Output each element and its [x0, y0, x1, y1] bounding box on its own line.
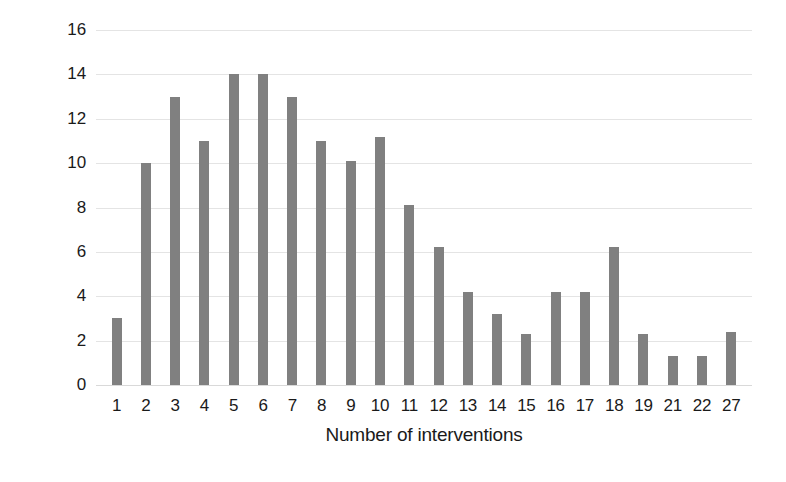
y-axis-tick-label: 6	[52, 241, 86, 263]
bar	[287, 97, 297, 385]
x-axis-tick-label: 7	[278, 391, 307, 421]
bar-slot	[600, 30, 629, 385]
bar	[404, 205, 414, 385]
x-axis-tick-label: 5	[219, 391, 248, 421]
x-axis-tick-label: 17	[570, 391, 599, 421]
bar	[346, 161, 356, 385]
x-axis-tick-label: 18	[600, 391, 629, 421]
bar-slot	[219, 30, 248, 385]
x-axis-tick-label: 19	[629, 391, 658, 421]
bar-slot	[453, 30, 482, 385]
y-axis-tick-label: 12	[52, 108, 86, 130]
bar-slot	[131, 30, 160, 385]
bar-slot	[541, 30, 570, 385]
x-axis-title: Number of interventions	[96, 424, 752, 446]
bar	[580, 292, 590, 385]
bar	[316, 141, 326, 385]
y-axis-tick-label: 4	[52, 285, 86, 307]
bar-slot	[102, 30, 131, 385]
bar-slot	[307, 30, 336, 385]
bar	[521, 334, 531, 385]
y-axis-tick-label: 8	[52, 197, 86, 219]
bar	[551, 292, 561, 385]
x-axis-tick-label: 15	[512, 391, 541, 421]
x-axis-tick-label: 10	[365, 391, 394, 421]
bar-slot	[717, 30, 746, 385]
x-axis-tick-label: 6	[248, 391, 277, 421]
bar	[170, 97, 180, 385]
bar-slot	[161, 30, 190, 385]
bar	[492, 314, 502, 385]
x-axis-tick-labels: 12345678910111213141516171819212227	[96, 391, 752, 421]
bar-slot	[190, 30, 219, 385]
bar	[638, 334, 648, 385]
y-axis-tick-label: 2	[52, 330, 86, 352]
x-axis-tick-label: 14	[482, 391, 511, 421]
y-axis-tick-labels: 1614121086420	[52, 19, 86, 385]
bar-slot	[570, 30, 599, 385]
bar-slot	[365, 30, 394, 385]
x-axis-tick-label: 12	[424, 391, 453, 421]
bar	[229, 74, 239, 385]
bar-slot	[248, 30, 277, 385]
x-axis-tick-label: 27	[717, 391, 746, 421]
plot-area	[96, 30, 752, 385]
x-axis-tick-label: 21	[658, 391, 687, 421]
bar	[199, 141, 209, 385]
bar	[697, 356, 707, 385]
x-axis-tick-label: 13	[453, 391, 482, 421]
bar	[609, 247, 619, 385]
bar-slot	[687, 30, 716, 385]
bar	[258, 74, 268, 385]
bar-slot	[336, 30, 365, 385]
bar	[434, 247, 444, 385]
gridline	[96, 385, 752, 386]
bar-slot	[278, 30, 307, 385]
bar	[375, 137, 385, 386]
x-axis-tick-label: 16	[541, 391, 570, 421]
bar	[112, 318, 122, 385]
x-axis-tick-label: 1	[102, 391, 131, 421]
bar-slot	[629, 30, 658, 385]
bar-slot	[512, 30, 541, 385]
bar	[726, 332, 736, 385]
y-axis-tick-label: 0	[52, 374, 86, 396]
y-axis-tick-label: 14	[52, 63, 86, 85]
bar-slot	[482, 30, 511, 385]
x-axis-tick-label: 22	[687, 391, 716, 421]
x-axis-tick-label: 11	[395, 391, 424, 421]
bar-slot	[395, 30, 424, 385]
bar-slot	[424, 30, 453, 385]
x-axis-tick-label: 2	[131, 391, 160, 421]
x-axis-tick-label: 9	[336, 391, 365, 421]
x-axis-tick-label: 3	[161, 391, 190, 421]
bar-series	[96, 30, 752, 385]
bar-chart: Number of reports 1614121086420 12345678…	[0, 0, 786, 482]
bar	[463, 292, 473, 385]
y-axis-tick-label: 10	[52, 152, 86, 174]
bar-slot	[658, 30, 687, 385]
bar	[141, 163, 151, 385]
x-axis-tick-label: 8	[307, 391, 336, 421]
bar	[668, 356, 678, 385]
x-axis-tick-label: 4	[190, 391, 219, 421]
y-axis-tick-label: 16	[52, 19, 86, 41]
